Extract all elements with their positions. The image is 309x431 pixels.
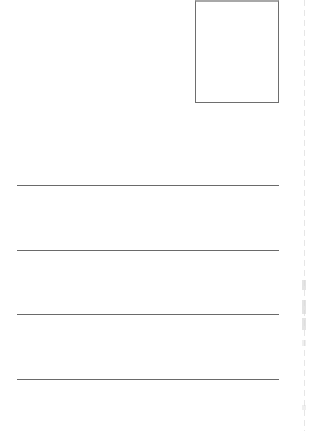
stamp-box xyxy=(195,0,279,103)
scan-smudge xyxy=(302,340,306,346)
scan-smudge xyxy=(302,405,306,410)
address-line-3 xyxy=(17,314,279,315)
scan-smudge xyxy=(302,300,306,314)
scan-smudge xyxy=(302,318,306,330)
postcard-page xyxy=(0,0,309,431)
address-line-1 xyxy=(17,185,279,186)
address-line-2 xyxy=(17,250,279,251)
address-line-4 xyxy=(17,379,279,380)
scan-smudge xyxy=(302,280,306,290)
scan-edge-artifact xyxy=(304,0,305,431)
